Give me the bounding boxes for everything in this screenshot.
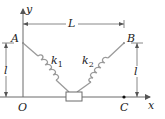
point-B-label: B <box>127 33 135 44</box>
y-axis-label: y <box>26 4 32 15</box>
point-C-label: C <box>120 102 128 113</box>
point-A-marker <box>22 42 24 44</box>
spring-k1-label: k1 <box>51 55 63 69</box>
spring-k2-label: k2 <box>82 55 94 69</box>
origin-label: O <box>18 102 27 113</box>
dimension-right-l-label: l <box>134 66 138 77</box>
dimension-left-l-label: l <box>4 65 8 76</box>
spring-mass-diagram: y x O A B C L l l k1 k2 <box>0 0 165 119</box>
point-C-marker <box>122 95 125 98</box>
point-A-label: A <box>11 33 19 44</box>
spring-k2-subscript: 2 <box>89 60 94 69</box>
x-axis-label: x <box>148 100 154 111</box>
spring-k2-symbol: k <box>82 54 89 67</box>
sliding-block <box>66 92 82 101</box>
spring-k1-subscript: 1 <box>58 60 63 69</box>
spring-k1-symbol: k <box>51 54 58 67</box>
point-B-marker <box>123 42 125 44</box>
dimension-L-label: L <box>68 18 75 29</box>
